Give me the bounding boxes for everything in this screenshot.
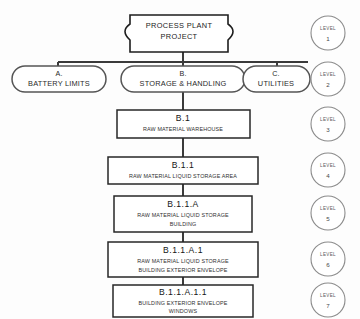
node-b1[interactable]: B.1 RAW MATERIAL WAREHOUSE: [117, 110, 250, 138]
b11a11-desc-line2: WINDOWS: [169, 308, 198, 314]
b11a11-code: B.1.1.A.1.1: [159, 287, 207, 297]
level-marker-3: LEVEL 3: [311, 107, 345, 141]
level-3-circle: [311, 107, 345, 141]
utilities-code: C.: [272, 69, 280, 78]
level-marker-7: LEVEL 7: [311, 283, 345, 317]
b11-code: B.1.1: [172, 160, 195, 170]
level-6-circle: [311, 242, 345, 276]
level-5-label: LEVEL: [320, 206, 336, 211]
storage-handling-code: B.: [179, 69, 186, 78]
root-title-line2: PROJECT: [161, 32, 198, 41]
level-3-label: LEVEL: [320, 117, 336, 122]
node-b11a[interactable]: B.1.1.A RAW MATERIAL LIQUID STORAGE BUIL…: [114, 196, 252, 232]
b11a1-code: B.1.1.A.1: [163, 245, 203, 255]
storage-handling-name: STORAGE & HANDLING: [140, 79, 227, 88]
node-battery-limits[interactable]: A. BATTERY LIMITS: [12, 66, 106, 92]
battery-limits-name: BATTERY LIMITS: [28, 79, 90, 88]
node-b11a1[interactable]: B.1.1.A.1 RAW MATERIAL LIQUID STORAGE BU…: [108, 242, 258, 277]
b11a-code: B.1.1.A: [167, 199, 199, 209]
node-b11a11[interactable]: B.1.1.A.1.1 BUILDING EXTERIOR ENVELOPE W…: [113, 285, 253, 317]
b1-desc-line1: RAW MATERIAL WAREHOUSE: [143, 126, 223, 132]
b11a1-desc-line1: RAW MATERIAL LIQUID STORAGE: [137, 258, 229, 264]
node-b11[interactable]: B.1.1 RAW MATERIAL LIQUID STORAGE AREA: [108, 157, 258, 184]
level-1-label: LEVEL: [320, 26, 336, 31]
level-marker-5: LEVEL 5: [311, 196, 345, 230]
node-storage-handling[interactable]: B. STORAGE & HANDLING: [121, 66, 245, 92]
level-7-number: 7: [326, 302, 330, 309]
level-marker-1: LEVEL 1: [311, 16, 345, 50]
node-root[interactable]: PROCESS PLANT PROJECT: [125, 15, 233, 52]
level-4-label: LEVEL: [320, 163, 336, 168]
b1-code: B.1: [176, 113, 190, 123]
b11a1-desc-line2: BUILDING EXTERIOR ENVELOPE: [139, 267, 228, 273]
level-2-circle: [311, 62, 345, 96]
b11a-desc-line1: RAW MATERIAL LIQUID STORAGE: [137, 212, 229, 218]
b11a-desc-line2: BUILDING: [170, 221, 197, 227]
b11-desc-line1: RAW MATERIAL LIQUID STORAGE AREA: [129, 173, 237, 179]
b11a11-desc-line1: BUILDING EXTERIOR ENVELOPE: [139, 300, 228, 306]
utilities-name: UTILITIES: [258, 79, 294, 88]
root-title-line1: PROCESS PLANT: [146, 21, 213, 30]
level-marker-2: LEVEL 2: [311, 62, 345, 96]
level-7-label: LEVEL: [320, 293, 336, 298]
level-marker-6: LEVEL 6: [311, 242, 345, 276]
battery-limits-code: A.: [55, 69, 62, 78]
level-3-number: 3: [326, 126, 330, 133]
wbs-diagram: PROCESS PLANT PROJECT A. BATTERY LIMITS …: [0, 0, 360, 319]
level-1-circle: [311, 16, 345, 50]
level-5-circle: [311, 196, 345, 230]
wbs-diagram-canvas: PROCESS PLANT PROJECT A. BATTERY LIMITS …: [0, 0, 360, 319]
level-2-label: LEVEL: [320, 72, 336, 77]
level-7-circle: [311, 283, 345, 317]
level-4-number: 4: [326, 172, 330, 179]
level-6-label: LEVEL: [320, 252, 336, 257]
level-marker-4: LEVEL 4: [311, 153, 345, 187]
level-1-number: 1: [326, 35, 330, 42]
level-2-number: 2: [326, 81, 330, 88]
level-5-number: 5: [326, 215, 330, 222]
level-6-number: 6: [326, 261, 330, 268]
node-utilities[interactable]: C. UTILITIES: [243, 66, 310, 92]
level-4-circle: [311, 153, 345, 187]
